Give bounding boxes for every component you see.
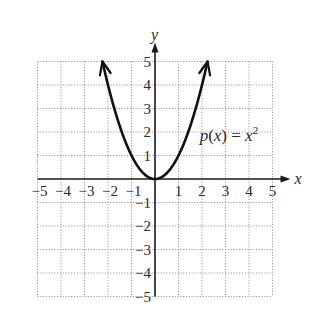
y-tick-label: −5: [135, 289, 151, 305]
axes: x y: [38, 26, 302, 297]
y-tick-label: −2: [135, 218, 151, 234]
function-label: p(x) = x2: [199, 124, 259, 145]
x-tick-label: 2: [198, 183, 206, 199]
x-tick-label: 1: [175, 183, 183, 199]
x-tick-label: 5: [269, 183, 277, 199]
x-tick-label: −5: [32, 183, 48, 199]
equals: ) =: [221, 126, 245, 145]
y-tick-label: 3: [144, 101, 152, 117]
y-tick-label: 2: [144, 124, 152, 140]
y-tick-label: −3: [135, 242, 151, 258]
y-axis-label: y: [149, 26, 159, 44]
x-tick-labels: −5−4−3−2−112345: [32, 183, 277, 199]
y-tick-label: 1: [144, 148, 152, 164]
exponent: 2: [253, 124, 259, 136]
y-tick-label: −4: [135, 265, 151, 281]
x-tick-label: 4: [245, 183, 253, 199]
x-axis-arrow-icon: [281, 176, 291, 183]
x-tick-label: −3: [79, 183, 95, 199]
x-tick-label: 3: [222, 183, 230, 199]
x-tick-label: −4: [55, 183, 71, 199]
x-tick-label: −2: [102, 183, 118, 199]
parabola-chart: x y −5−4−3−2−112345 54321−1−2−3−4−5 p(x)…: [0, 0, 310, 326]
function-name: p: [199, 126, 209, 145]
y-tick-label: −1: [135, 195, 151, 211]
y-axis-arrow-icon: [152, 43, 159, 53]
y-tick-label: 5: [144, 54, 152, 70]
x-axis-label: x: [294, 170, 302, 187]
y-tick-label: 4: [144, 77, 152, 93]
